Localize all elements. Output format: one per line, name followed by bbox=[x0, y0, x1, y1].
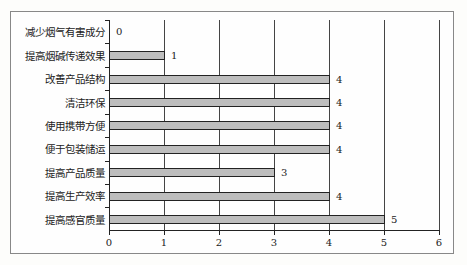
category-label: 清洁环保 bbox=[65, 97, 105, 109]
plot-area: 0 1 4 4 4 4 3 4 5 bbox=[109, 20, 440, 231]
y-tick bbox=[105, 161, 109, 162]
y-tick bbox=[105, 137, 109, 138]
x-tick-label: 1 bbox=[158, 237, 170, 248]
y-tick bbox=[105, 43, 109, 44]
bar-提高产品质量 bbox=[109, 168, 275, 177]
y-tick bbox=[105, 114, 109, 115]
bar-清洁环保 bbox=[109, 98, 330, 107]
bar-便于包装储运 bbox=[109, 145, 330, 154]
category-label: 提高烟碱传递效果 bbox=[25, 50, 105, 62]
category-label: 改善产品结构 bbox=[45, 73, 105, 85]
x-tick-label: 5 bbox=[378, 237, 390, 248]
category-label: 减少烟气有害成分 bbox=[25, 26, 105, 38]
x-tick-label: 4 bbox=[323, 237, 335, 248]
category-label: 提高产品质量 bbox=[45, 167, 105, 179]
value-label: 0 bbox=[116, 27, 122, 37]
value-label: 4 bbox=[336, 192, 342, 202]
value-label: 3 bbox=[281, 168, 287, 178]
x-tick-label: 3 bbox=[268, 237, 280, 248]
category-label: 便于包装储运 bbox=[45, 143, 105, 155]
y-tick bbox=[105, 184, 109, 185]
bar-提高烟碱传递效果 bbox=[109, 51, 165, 60]
y-tick bbox=[105, 20, 109, 21]
x-tick bbox=[164, 231, 165, 235]
bar-提高感官质量 bbox=[109, 215, 385, 224]
category-label: 使用携带方便 bbox=[45, 120, 105, 132]
x-tick bbox=[219, 231, 220, 235]
value-label: 4 bbox=[336, 75, 342, 85]
category-label: 提高感官质量 bbox=[45, 214, 105, 226]
x-tick-label: 2 bbox=[213, 237, 225, 248]
x-tick bbox=[439, 231, 440, 235]
x-tick bbox=[384, 231, 385, 235]
bar-提高生产效率 bbox=[109, 192, 330, 201]
value-label: 4 bbox=[336, 98, 342, 108]
value-label: 4 bbox=[336, 121, 342, 131]
value-label: 5 bbox=[391, 215, 397, 225]
bar-改善产品结构 bbox=[109, 75, 330, 84]
y-tick bbox=[105, 90, 109, 91]
x-tick-label: 6 bbox=[433, 237, 445, 248]
y-tick bbox=[105, 207, 109, 208]
value-label: 4 bbox=[336, 145, 342, 155]
gridline-6 bbox=[439, 20, 440, 231]
gridline-5 bbox=[384, 20, 385, 231]
x-tick bbox=[109, 231, 110, 235]
category-label: 提高生产效率 bbox=[45, 190, 105, 202]
x-tick-label: 0 bbox=[103, 237, 115, 248]
x-tick bbox=[274, 231, 275, 235]
x-tick bbox=[329, 231, 330, 235]
value-label: 1 bbox=[171, 51, 177, 61]
bar-使用携带方便 bbox=[109, 121, 330, 130]
y-tick bbox=[105, 67, 109, 68]
